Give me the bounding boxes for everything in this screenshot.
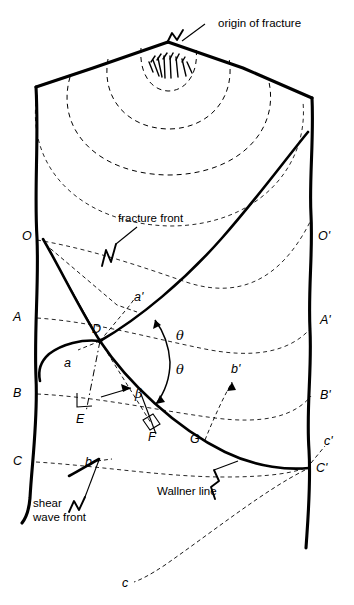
shear-wave-front-label: shear wave front: [33, 496, 86, 525]
angle-label-theta-lower: θ: [176, 362, 184, 377]
point-label-G: G: [190, 432, 200, 447]
fracture-front-label: fracture front: [118, 212, 183, 226]
ray-label-b: b: [85, 455, 92, 470]
wallner-line-AA: [37, 318, 311, 353]
origin-of-fracture-leader: [182, 24, 205, 41]
point-label-D: D: [92, 322, 101, 337]
wallner-arc-4: [35, 95, 303, 226]
origin-of-fracture-label: origin of fracture: [218, 17, 301, 31]
ray-label-c: c: [122, 576, 128, 591]
ray-b-prime-arrowhead: [227, 382, 236, 391]
specimen-left-edge: [22, 87, 37, 523]
fracture-surface-figure: origin of fracture fracture front Wallne…: [0, 0, 354, 605]
shear-wave-front-label-line1: shear: [33, 496, 86, 510]
ray-a-prime-upper: [100, 298, 135, 341]
ray-label-a-prime: a': [134, 290, 143, 305]
theta-arc-lower: [156, 362, 170, 404]
shear-wave-front-lower-segment: [69, 459, 99, 476]
wallner-line-label: Wallner line: [157, 485, 217, 499]
point-label-E: E: [76, 412, 84, 427]
ray-label-b-prime: b': [231, 362, 240, 377]
wallner-arc-2: [107, 58, 230, 129]
point-label-A: A: [13, 310, 21, 325]
point-label-F: F: [148, 430, 156, 445]
angle-label-theta-upper: θ: [176, 328, 184, 343]
point-label-B-prime: B': [320, 388, 331, 403]
point-label-B: B: [13, 386, 21, 401]
shear-wave-front-label-line2: wave front: [33, 510, 86, 524]
wallner-line-CC: [36, 462, 310, 477]
angle-label-beta: β: [135, 386, 143, 401]
fracture-front-leader: [116, 227, 137, 244]
wallner-arc-1: [141, 48, 197, 91]
point-label-C-prime: C': [316, 461, 327, 476]
right-angle-marker-E: [77, 393, 92, 407]
point-label-O: O: [22, 229, 32, 244]
specimen-top-right-edge: [168, 42, 312, 98]
ray-O-dashed-a-prime: [45, 244, 137, 312]
specimen-right-edge: [306, 98, 312, 548]
wallner-arc-3: [67, 77, 271, 175]
ray-label-c-prime: c': [324, 434, 333, 449]
point-label-C: C: [13, 454, 22, 469]
fracture-front-squiggle: [102, 244, 116, 266]
theta-arc-lower-arrowhead-bottom: [156, 395, 165, 404]
fracture-front-upper-branch: [100, 132, 308, 341]
point-label-O-prime: O': [318, 229, 330, 244]
ray-D-to-E: [86, 341, 100, 412]
specimen-top-edges: [36, 42, 168, 87]
origin-hackle-marks: [149, 53, 192, 78]
ray-D-to-F: [100, 341, 151, 423]
wallner-line-leader: [214, 461, 238, 470]
point-D-marker: [98, 339, 103, 344]
point-label-A-prime: A': [320, 313, 331, 328]
ray-label-a: a: [64, 356, 71, 371]
wallner-line-OO: [37, 222, 310, 288]
fracture-front-curve: [43, 239, 309, 469]
